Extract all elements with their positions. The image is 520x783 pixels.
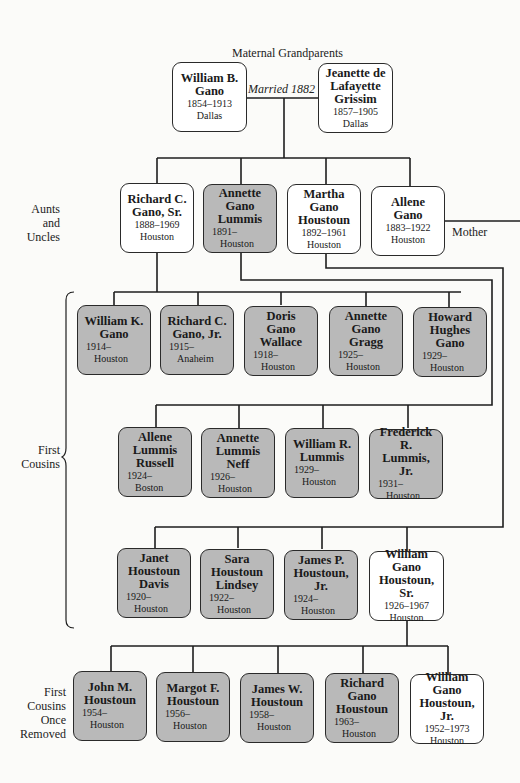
person-martha-gano-houstoun: Martha Gano Houstoun 1892–1961 Houston	[287, 184, 361, 254]
person-james-w-houstoun: James W. Houstoun 1958– Houston	[240, 673, 314, 743]
person-place: Houston	[289, 605, 353, 617]
person-years: 1954–	[78, 707, 142, 719]
person-years: 1922–	[205, 592, 269, 604]
person-name: Lummis, Jr.	[374, 452, 438, 478]
person-name: Lummis	[290, 451, 354, 464]
label-mother: Mother	[452, 225, 487, 240]
person-name: Gano	[249, 323, 313, 336]
person-name: Houstoun, Sr.	[374, 574, 439, 600]
person-william-gano-houstoun-sr: William Gano Houstoun, Sr. 1926–1967 Hou…	[369, 551, 444, 621]
person-richard-gano-houstoun: Richard Gano Houstoun 1963– Houston	[325, 673, 399, 743]
person-name: Annette	[334, 310, 398, 323]
person-name: Houstoun	[161, 695, 225, 708]
person-years: 1925–	[334, 349, 398, 361]
person-place: Dallas	[323, 118, 388, 130]
label-line: Cousins	[10, 457, 60, 471]
person-name: Gano, Sr.	[125, 206, 189, 219]
family-tree: Maternal Grandparents Married 1882 Willi…	[0, 0, 520, 783]
person-james-p-houstoun-jr: James P. Houstoun, Jr. 1924– Houston	[284, 550, 358, 620]
person-name: Gano	[292, 201, 356, 214]
person-years: 1963–	[330, 716, 394, 728]
label-aunts-uncles: Aunts and Uncles	[20, 202, 60, 244]
person-name: Gano	[376, 209, 440, 222]
person-place: Houston	[418, 362, 482, 374]
person-place: Houston	[330, 728, 394, 740]
person-name: Lummis	[123, 444, 187, 457]
person-years: 1883–1922	[376, 222, 440, 234]
label-line: Uncles	[20, 230, 60, 244]
person-name: Wallace	[249, 336, 313, 349]
person-place: Houston	[205, 604, 269, 616]
person-years: 1926–1967	[374, 600, 439, 612]
person-allene-gano: Allene Gano 1883–1922 Houston	[371, 186, 445, 256]
person-name: Grissim	[323, 93, 388, 106]
person-name: Lummis	[208, 213, 272, 226]
person-name: Gano	[177, 85, 242, 98]
person-annette-gano-lummis: Annette Gano Lummis 1891– Houston	[203, 184, 277, 253]
label-first-cousins: First Cousins	[10, 443, 60, 471]
person-place: Houston	[125, 231, 189, 243]
person-place: Houston	[78, 719, 142, 731]
person-name: Martha	[292, 188, 356, 201]
person-place: Houston	[122, 603, 186, 615]
person-frederick-r-lummis-jr: Frederick R. Lummis, Jr. 1931– Houston	[369, 429, 443, 499]
person-william-gano-houstoun-jr: William Gano Houstoun, Jr. 1952–1973 Hou…	[410, 674, 484, 744]
label-line: Cousins	[10, 699, 66, 713]
person-name: Houstoun	[122, 565, 186, 578]
person-years: 1931–	[374, 478, 438, 490]
person-place: Anaheim	[165, 353, 229, 365]
person-years: 1926–	[206, 471, 270, 483]
person-years: 1952–1973	[415, 723, 479, 735]
person-place: Boston	[123, 482, 187, 494]
label-line: First	[10, 443, 60, 457]
person-richard-c-gano-jr: Richard C. Gano, Jr. 1915– Anaheim	[160, 305, 234, 375]
person-place: Houston	[206, 483, 270, 495]
person-doris-gano-wallace: Doris Gano Wallace 1918– Houston	[244, 306, 318, 376]
person-margot-f-houstoun: Margot F. Houstoun 1956– Houston	[156, 672, 230, 742]
person-place: Houston	[374, 490, 438, 502]
person-howard-hughes-gano: Howard Hughes Gano 1929– Houston	[413, 307, 487, 377]
person-name: Sara	[205, 553, 269, 566]
person-name: Houstoun	[292, 214, 356, 227]
person-place: Houston	[290, 476, 354, 488]
person-john-m-houstoun: John M. Houstoun 1954– Houston	[73, 671, 147, 741]
person-years: 1924–	[123, 470, 187, 482]
person-name: Gano	[330, 690, 394, 703]
person-place: Houston	[376, 234, 440, 246]
person-name: Houstoun	[330, 703, 394, 716]
person-name: Hughes	[418, 324, 482, 337]
connector-lines	[0, 0, 520, 783]
person-name: Houstoun,	[289, 567, 353, 580]
person-years: 1929–	[290, 464, 354, 476]
person-richard-c-gano-sr: Richard C. Gano, Sr. 1888–1969 Houston	[120, 183, 194, 253]
person-name: Houstoun	[205, 566, 269, 579]
label-line: Once	[10, 713, 66, 727]
person-years: 1891–	[208, 226, 272, 238]
person-place: Houston	[374, 612, 439, 624]
person-years: 1854–1913	[177, 98, 242, 110]
person-name: Gano, Jr.	[165, 328, 229, 341]
person-name: Lafayette	[323, 80, 388, 93]
person-place: Dallas	[177, 110, 242, 122]
person-years: 1918–	[249, 349, 313, 361]
person-place: Houston	[415, 735, 479, 747]
person-annette-gano-gragg: Annette Gano Gragg 1925– Houston	[329, 306, 403, 376]
person-name: Houstoun	[245, 696, 309, 709]
person-william-k-gano: William K. Gano 1914– Houston	[77, 305, 151, 375]
person-name: Allene	[123, 431, 187, 444]
person-name: Neff	[206, 458, 270, 471]
person-place: Houston	[82, 353, 146, 365]
person-name: Houstoun	[78, 694, 142, 707]
person-place: Houston	[334, 361, 398, 373]
person-name: Frederick R.	[374, 426, 438, 452]
person-place: Houston	[292, 239, 356, 251]
person-years: 1924–	[289, 593, 353, 605]
person-years: 1914–	[82, 341, 146, 353]
person-years: 1958–	[245, 709, 309, 721]
person-years: 1888–1969	[125, 219, 189, 231]
label-line: and	[20, 216, 60, 230]
person-janet-houstoun-davis: Janet Houstoun Davis 1920– Houston	[117, 548, 191, 618]
person-name: Lummis	[206, 445, 270, 458]
person-jeanette-grissim: Jeanette de Lafayette Grissim 1857–1905 …	[318, 63, 393, 133]
person-place: Houston	[208, 238, 272, 250]
